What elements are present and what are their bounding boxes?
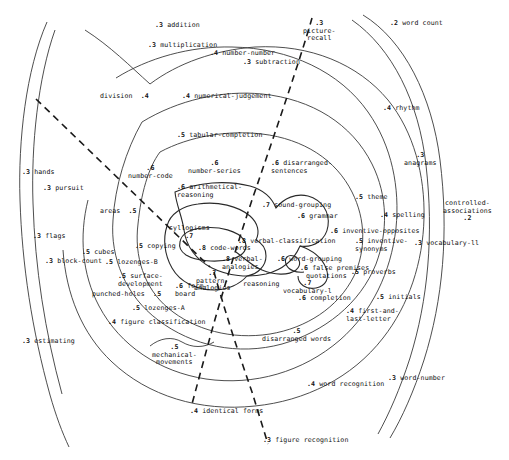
radex-point-name: punched-holes [92, 290, 145, 298]
radex-point-value: .5 [153, 290, 161, 298]
radex-point-label: .5 inventive- synonyms [355, 238, 408, 253]
radex-point-name: first-and- last-letter [346, 307, 399, 323]
radex-point-label: .7vocabulary-l [283, 280, 332, 295]
radex-point-label: .5 tabular-completion [177, 132, 262, 140]
radex-point-name: completion [310, 294, 351, 302]
radex-point-value: .2 [390, 19, 398, 27]
radex-point-value: .4 [141, 92, 149, 100]
radex-point-name: block-count [57, 257, 102, 265]
radex-point-name: numerical-judgement [194, 92, 271, 100]
radex-point-label: .6number-series [188, 160, 241, 175]
radex-point-name: copying [147, 242, 176, 250]
radex-point-label: .3 flags [33, 233, 66, 241]
radex-point-label: .3 block-count [45, 258, 102, 266]
radex-point-name: pursuit [55, 184, 84, 192]
radex-point-value: .3 [22, 168, 30, 176]
radex-point-value: .8 [198, 244, 206, 252]
radex-point-name: addition [167, 21, 200, 29]
radex-point-label: .4 word recognition [307, 381, 384, 389]
radex-point-value: .4 [307, 380, 315, 388]
radex-point-label: .6number-code [128, 165, 173, 180]
radex-point-name: theme [367, 193, 387, 201]
radex-point-label: .3picture- recall [303, 20, 336, 43]
radex-point-label: .6 arithmetical- reasoning [177, 184, 242, 199]
radex-point-name: areas [100, 207, 120, 215]
divider-line-north [192, 18, 312, 404]
radex-point-name: verbal-classification [250, 237, 335, 245]
radex-point-value: .7 [169, 233, 210, 241]
radex-point-label: .6 grammar [297, 213, 338, 221]
radex-point-label: .3 estimating [22, 338, 75, 346]
radex-point-label: .5 lozenges-B [105, 259, 158, 267]
radex-point-label: .4 figure classification [108, 319, 206, 327]
radex-point-name: figure classification [120, 318, 205, 326]
radex-point-label: .6 inventive-opposites [330, 228, 420, 236]
radex-point-value: .6 [300, 264, 308, 272]
radex-point-label: .5 copying [135, 243, 176, 251]
radex-point-name: estimating [34, 337, 75, 345]
radex-point-value: .6 [277, 255, 285, 263]
radex-point-label: .5 cubes [82, 249, 115, 257]
radex-point-label: .3 pursuit [43, 185, 84, 193]
radex-point-label: .3 vocabulary-ll [414, 240, 479, 248]
radex-point-label: .5 theme [355, 194, 388, 202]
radex-point-label: .8 code-words [198, 245, 251, 253]
radex-point-name: arithmetical- reasoning [177, 183, 242, 199]
radex-point-label: .6 form- board [175, 283, 208, 298]
radex-point-value: .6 [297, 212, 305, 220]
radex-point-label: punched-holes .5 [92, 291, 161, 299]
radex-point-name: tabular-completion [189, 131, 262, 139]
radex-point-name: figure recognition [275, 436, 348, 444]
radex-point-label: .5disarranged words [262, 328, 331, 343]
radex-point-name: picture- recall [303, 27, 336, 43]
radex-point-name: quotations [306, 272, 347, 280]
radex-point-name: rhythm [395, 104, 419, 112]
radex-point-name: word recognition [319, 380, 384, 388]
radex-point-label: .3anagrams [404, 152, 437, 167]
radex-point-value: .3 [388, 374, 396, 382]
radex-point-label: controlled- associations.2 [443, 200, 492, 223]
radex-point-label: .3 subtraction [243, 59, 300, 67]
radex-point-name: division [100, 92, 133, 100]
radex-point-label: .3 figure recognition [263, 437, 348, 445]
radex-point-value: .3 [22, 337, 30, 345]
radex-point-label: .5 lozenges-A [132, 305, 185, 313]
radex-point-label: syllogisms.7 [169, 225, 210, 240]
radex-point-value: .4 [380, 211, 388, 219]
radex-point-value: .5 [82, 248, 90, 256]
radex-point-value: .3 [414, 239, 422, 247]
radex-point-value: .3 [243, 58, 251, 66]
radex-point-label: .6 word-grouping [277, 256, 342, 264]
radex-point-value: .5 [132, 304, 140, 312]
radex-point-value: .5 [351, 268, 359, 276]
radex-point-label: .8 verbal- analogies [222, 256, 263, 271]
radex-point-value: .6 [298, 294, 306, 302]
radex-point-name: anagrams [404, 159, 437, 167]
radex-point-name: syllogisms [169, 224, 210, 232]
radex-point-name: number-series [188, 167, 241, 175]
radex-point-name: sound-grouping [274, 201, 331, 209]
radex-point-name: initials [388, 293, 421, 301]
radex-point-value: .6 [330, 227, 338, 235]
radex-point-name: proverbs [363, 268, 396, 276]
radex-point-value: .5 [135, 242, 143, 250]
radex-point-label: .5mechanical- movements [152, 344, 197, 367]
radex-point-name: number-code [128, 172, 173, 180]
radex-point-label: reasoning [243, 281, 280, 289]
radex-point-value: .5 [105, 258, 113, 266]
radex-diagram [0, 0, 509, 460]
radex-point-name: word-number [400, 374, 445, 382]
radex-point-name: reasoning [243, 280, 280, 288]
radex-point-name: disarranged- sentences [271, 159, 332, 175]
radex-point-name: number-number [222, 49, 275, 57]
radex-point-value: .5 [177, 131, 185, 139]
radex-point-name: inventive-opposites [342, 227, 419, 235]
radex-point-value: .3 [155, 21, 163, 29]
radex-point-name: cubes [94, 248, 114, 256]
radex-point-value: .3 [148, 41, 156, 49]
radex-point-value: .4 [182, 92, 190, 100]
radex-point-label: .2 word count [390, 20, 443, 28]
radex-point-label: .3 addition [155, 22, 200, 30]
radex-point-name: word-grouping [289, 255, 342, 263]
radex-point-label: .4 number-number [210, 50, 275, 58]
